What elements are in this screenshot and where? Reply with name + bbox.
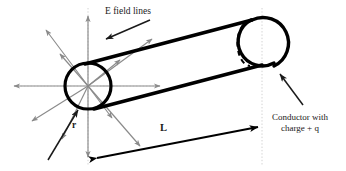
electric-field-lines bbox=[14, 16, 160, 157]
conductor-cylinder bbox=[65, 18, 288, 109]
field-line-lower-right bbox=[88, 86, 140, 146]
label-conductor-charge: Conductor with charge + q bbox=[258, 112, 342, 135]
label-length-L: L bbox=[160, 122, 167, 134]
length-dimension-arrow bbox=[97, 127, 258, 158]
label-conductor-line2: charge + q bbox=[281, 123, 319, 133]
field-line-upper-right bbox=[88, 39, 152, 86]
diagram-canvas bbox=[0, 0, 346, 171]
field-line-down-right-short bbox=[88, 86, 112, 118]
cylinder-top-edge bbox=[85, 20, 252, 64]
radius-pointer-arrow bbox=[48, 110, 78, 160]
conductor-pointer-arrow bbox=[280, 74, 303, 105]
efield-pointer-arrow bbox=[106, 20, 150, 39]
label-conductor-line1: Conductor with bbox=[272, 112, 328, 122]
label-e-field-lines: E field lines bbox=[105, 6, 151, 17]
physics-diagram-figure: E field lines Conductor with charge + q … bbox=[0, 0, 346, 171]
dimension-line-L bbox=[97, 127, 258, 158]
label-radius-r: r bbox=[72, 120, 76, 131]
cylinder-bottom-edge bbox=[94, 65, 262, 109]
cylinder-right-cap-lower bbox=[238, 20, 274, 66]
cylinder-right-cap bbox=[252, 18, 288, 66]
